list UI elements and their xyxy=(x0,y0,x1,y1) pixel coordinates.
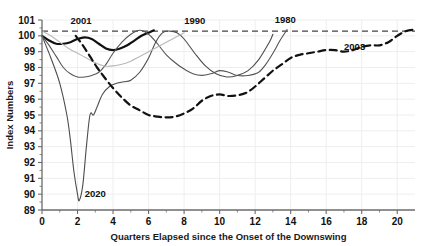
y-tick-label: 98 xyxy=(24,62,36,73)
series-annotation-1980: 1980 xyxy=(275,14,296,25)
y-tick-label: 99 xyxy=(24,46,36,57)
x-tick-label: 2 xyxy=(75,216,81,227)
series-annotation-2020: 2020 xyxy=(85,188,106,199)
y-tick-label: 101 xyxy=(18,15,35,26)
x-tick-label: 4 xyxy=(110,216,116,227)
x-tick-label: 8 xyxy=(181,216,187,227)
chart-container: 8990919293949596979899100101024681012141… xyxy=(0,0,422,246)
series-line-2001 xyxy=(42,30,154,50)
y-tick-label: 100 xyxy=(18,30,35,41)
x-axis-title: Quarters Elapsed since the Onset of the … xyxy=(111,231,347,242)
x-tick-label: 18 xyxy=(356,216,368,227)
y-tick-label: 89 xyxy=(24,205,36,216)
x-tick-label: 16 xyxy=(321,216,333,227)
x-tick-label: 6 xyxy=(146,216,152,227)
series-annotation-2001: 2001 xyxy=(71,15,93,26)
y-tick-label: 94 xyxy=(24,125,36,136)
series-annotation-1990: 1990 xyxy=(184,15,205,26)
x-tick-label: 14 xyxy=(285,216,297,227)
line-chart: 8990919293949596979899100101024681012141… xyxy=(0,0,422,246)
series-annotation-2008: 2008 xyxy=(344,41,365,52)
y-tick-label: 95 xyxy=(24,110,36,121)
x-tick-label: 10 xyxy=(214,216,226,227)
x-tick-label: 0 xyxy=(39,216,45,227)
y-tick-label: 91 xyxy=(24,173,36,184)
y-tick-label: 96 xyxy=(24,94,36,105)
y-tick-label: 92 xyxy=(24,157,36,168)
x-tick-label: 20 xyxy=(392,216,404,227)
y-tick-label: 97 xyxy=(24,78,36,89)
y-tick-label: 90 xyxy=(24,189,36,200)
x-tick-label: 12 xyxy=(250,216,262,227)
y-tick-label: 93 xyxy=(24,141,36,152)
y-axis-title: Index Numbers xyxy=(4,81,15,150)
